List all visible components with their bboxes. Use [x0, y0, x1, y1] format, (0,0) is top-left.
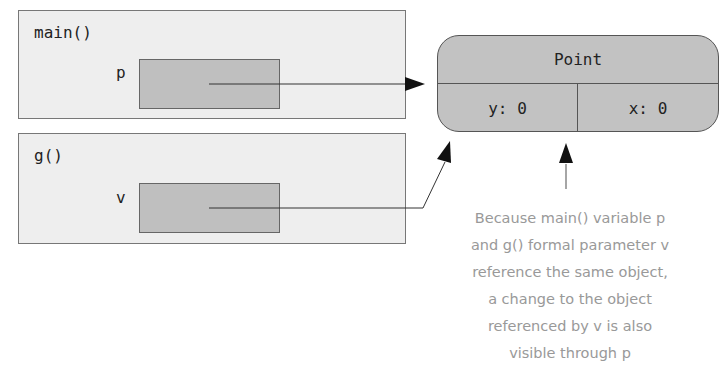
arrow-annotation-to-object [559, 143, 573, 189]
annotation-note: Because main() variable p and g() formal… [420, 205, 720, 367]
annotation-line: a change to the object [420, 286, 720, 313]
annotation-line: Because main() variable p [420, 205, 720, 232]
arrow-v-to-object [209, 141, 451, 208]
arrowhead-icon [437, 141, 451, 163]
arrowhead-icon [559, 143, 573, 163]
annotation-line: referenced by v is also [420, 313, 720, 340]
arrowhead-icon [405, 77, 425, 91]
annotation-line: and g() formal parameter v [420, 232, 720, 259]
annotation-line: visible through p [420, 340, 720, 367]
arrow-p-to-object [209, 77, 425, 91]
annotation-line: reference the same object, [420, 259, 720, 286]
